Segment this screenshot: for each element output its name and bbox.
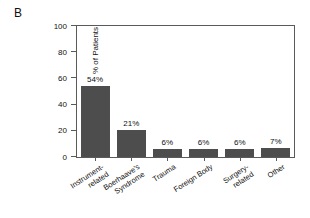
bar-value-label: 6%	[234, 138, 246, 147]
y-axis-tick-label: 60	[58, 73, 67, 82]
x-axis-category-line: Other	[266, 162, 287, 180]
x-axis-category-label: Foreign Body	[172, 163, 214, 194]
y-axis-tick-label: 0	[63, 152, 67, 161]
y-axis-tick: 100	[71, 25, 77, 26]
bar-value-label: 54%	[87, 75, 103, 84]
bar-value-label: 6%	[162, 138, 174, 147]
bar: 7%	[261, 148, 290, 157]
bar: 54%	[81, 86, 110, 157]
bar: 6%	[189, 149, 218, 157]
x-axis-category-label: Trauma	[152, 163, 178, 184]
x-axis-category-line: Trauma	[151, 162, 177, 183]
bar: 21%	[117, 130, 146, 158]
x-axis-category-label: Instrument-related	[69, 163, 110, 198]
panel-label: B	[14, 6, 22, 20]
y-axis-tick: 0	[71, 156, 77, 157]
y-axis-tick: 80	[71, 51, 77, 52]
x-axis-tick	[240, 157, 241, 161]
x-axis-tick	[95, 157, 96, 161]
y-axis-tick-label: 20	[58, 126, 67, 135]
y-axis-tick: 60	[71, 77, 77, 78]
x-axis-tick	[204, 157, 205, 161]
bar-value-label: 6%	[198, 138, 210, 147]
y-axis-tick-label: 40	[58, 100, 67, 109]
plot-area: % of Patients 020406080100 Instrument-re…	[76, 25, 295, 158]
y-axis-tick: 20	[71, 130, 77, 131]
y-axis-tick: 40	[71, 104, 77, 105]
x-axis-category-label: Other	[266, 163, 286, 180]
y-axis-tick-label: 80	[58, 47, 67, 56]
x-axis-category-line: Foreign Body	[172, 162, 214, 194]
bar: 6%	[153, 149, 182, 157]
y-axis-tick-label: 100	[54, 21, 67, 30]
x-axis-category-label: Boerhaave'sSyndrome	[102, 163, 146, 200]
bar: 6%	[225, 149, 254, 157]
x-axis-tick	[276, 157, 277, 161]
x-axis-tick	[167, 157, 168, 161]
bar-value-label: 7%	[270, 137, 282, 146]
bar-value-label: 21%	[123, 119, 139, 128]
x-axis-tick	[131, 157, 132, 161]
x-axis-category-label: Surgery-related	[222, 163, 255, 193]
